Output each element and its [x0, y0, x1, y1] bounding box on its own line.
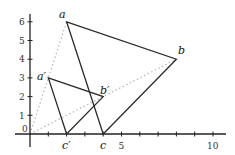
y-tick-label-5: 5 [19, 36, 25, 46]
dilation-diagram: 5 10 1 2 3 4 5 6 0 a b c a′ b′ c′ [0, 0, 235, 155]
y-tick-label-2: 2 [19, 92, 25, 102]
y-tick-label-6: 6 [19, 17, 25, 27]
triangle-a-prime-b-prime-c-prime [48, 78, 103, 134]
x-tick-label-5: 5 [119, 141, 125, 151]
y-tick-label-1: 1 [19, 111, 25, 121]
point-label-a: a [59, 8, 66, 21]
point-label-c-prime: c′ [62, 139, 71, 152]
point-label-b: b [178, 44, 185, 57]
x-tick-label-10: 10 [207, 141, 219, 151]
point-label-b-prime: b′ [100, 84, 110, 97]
y-tick-label-3: 3 [19, 73, 25, 83]
y-tick-label-4: 4 [19, 54, 25, 64]
point-label-a-prime: a′ [37, 70, 47, 83]
origin-label: 0 [22, 124, 28, 134]
point-label-c: c [100, 139, 106, 152]
